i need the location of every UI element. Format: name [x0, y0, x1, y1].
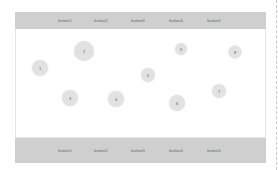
- node-4[interactable]: 4: [108, 91, 124, 107]
- bottom-button-3[interactable]: button3: [131, 148, 144, 153]
- node-6[interactable]: 6: [169, 95, 185, 111]
- top-button-2[interactable]: button2: [94, 18, 107, 23]
- top-button-3[interactable]: button3: [131, 18, 144, 23]
- node-1[interactable]: 1: [32, 60, 48, 76]
- bottom-button-2[interactable]: button2: [94, 148, 107, 153]
- dashed-divider: [276, 0, 277, 170]
- top-button-5[interactable]: button5: [207, 18, 220, 23]
- node-8[interactable]: 8: [229, 46, 242, 59]
- node-7[interactable]: 7: [212, 84, 226, 98]
- bottom-toolbar: button1 button2 button3 button4 button5: [15, 138, 266, 163]
- top-button-4[interactable]: button4: [169, 18, 182, 23]
- node-3[interactable]: 3: [62, 90, 78, 106]
- node-5[interactable]: 5: [141, 68, 155, 82]
- top-button-1[interactable]: button1: [58, 18, 71, 23]
- top-toolbar: button1 button2 button3 button4 button5: [15, 12, 266, 29]
- node-2[interactable]: 2: [74, 41, 94, 61]
- bottom-button-4[interactable]: button4: [169, 148, 182, 153]
- node-9[interactable]: 9: [175, 43, 187, 55]
- bottom-button-1[interactable]: button1: [58, 148, 71, 153]
- bottom-button-5[interactable]: button5: [207, 148, 220, 153]
